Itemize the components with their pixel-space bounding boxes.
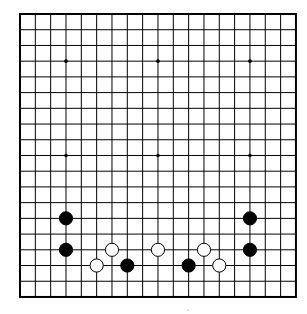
intersection[interactable] — [44, 228, 57, 241]
intersection[interactable] — [105, 149, 118, 162]
intersection[interactable] — [213, 70, 226, 83]
intersection[interactable] — [167, 196, 180, 209]
intersection[interactable] — [151, 228, 164, 241]
intersection[interactable] — [274, 102, 287, 115]
intersection[interactable] — [14, 39, 27, 52]
intersection[interactable] — [75, 212, 88, 225]
intersection[interactable] — [228, 133, 241, 146]
intersection[interactable] — [14, 228, 27, 241]
intersection[interactable] — [44, 39, 57, 52]
intersection[interactable] — [44, 23, 57, 36]
intersection[interactable] — [182, 228, 195, 241]
intersection[interactable] — [167, 290, 180, 303]
intersection[interactable] — [213, 118, 226, 131]
intersection[interactable] — [105, 133, 118, 146]
intersection[interactable] — [243, 39, 256, 52]
intersection[interactable] — [105, 180, 118, 193]
intersection[interactable] — [136, 70, 149, 83]
intersection[interactable] — [243, 55, 256, 68]
intersection[interactable] — [228, 275, 241, 288]
intersection[interactable] — [105, 165, 118, 178]
intersection[interactable] — [121, 102, 134, 115]
intersection[interactable] — [228, 212, 241, 225]
intersection[interactable] — [213, 180, 226, 193]
intersection[interactable] — [121, 70, 134, 83]
intersection[interactable] — [44, 133, 57, 146]
intersection[interactable] — [259, 118, 272, 131]
intersection[interactable] — [75, 290, 88, 303]
intersection[interactable] — [59, 275, 72, 288]
intersection[interactable] — [136, 275, 149, 288]
intersection[interactable] — [274, 39, 287, 52]
intersection[interactable] — [197, 180, 210, 193]
intersection[interactable] — [243, 8, 256, 21]
intersection[interactable] — [29, 212, 42, 225]
intersection[interactable] — [274, 86, 287, 99]
intersection[interactable] — [197, 290, 210, 303]
intersection[interactable] — [59, 180, 72, 193]
intersection[interactable] — [121, 55, 134, 68]
intersection[interactable] — [75, 196, 88, 209]
intersection[interactable] — [182, 118, 195, 131]
intersection[interactable] — [44, 196, 57, 209]
intersection[interactable] — [213, 212, 226, 225]
intersection[interactable] — [167, 70, 180, 83]
intersection[interactable] — [289, 55, 302, 68]
intersection[interactable] — [14, 23, 27, 36]
intersection[interactable] — [90, 275, 103, 288]
intersection[interactable] — [274, 23, 287, 36]
intersection[interactable] — [105, 290, 118, 303]
intersection[interactable] — [228, 259, 241, 272]
intersection[interactable] — [274, 275, 287, 288]
intersection[interactable] — [213, 23, 226, 36]
intersection[interactable] — [44, 149, 57, 162]
intersection[interactable] — [289, 70, 302, 83]
intersection[interactable] — [59, 290, 72, 303]
intersection[interactable] — [14, 180, 27, 193]
intersection[interactable] — [14, 102, 27, 115]
intersection[interactable] — [105, 275, 118, 288]
intersection[interactable] — [59, 228, 72, 241]
intersection[interactable] — [14, 133, 27, 146]
intersection[interactable] — [213, 290, 226, 303]
intersection[interactable] — [228, 8, 241, 21]
intersection[interactable] — [90, 39, 103, 52]
intersection[interactable] — [167, 212, 180, 225]
intersection[interactable] — [259, 259, 272, 272]
intersection[interactable] — [44, 275, 57, 288]
intersection[interactable] — [182, 165, 195, 178]
intersection[interactable] — [243, 180, 256, 193]
intersection[interactable] — [90, 228, 103, 241]
intersection[interactable] — [274, 180, 287, 193]
intersection[interactable] — [151, 70, 164, 83]
intersection[interactable] — [228, 23, 241, 36]
intersection[interactable] — [29, 39, 42, 52]
intersection[interactable] — [274, 149, 287, 162]
intersection[interactable] — [182, 23, 195, 36]
go-board-grid[interactable] — [0, 0, 307, 314]
intersection[interactable] — [59, 196, 72, 209]
intersection[interactable] — [75, 86, 88, 99]
intersection[interactable] — [90, 165, 103, 178]
intersection[interactable] — [151, 196, 164, 209]
intersection[interactable] — [75, 70, 88, 83]
intersection[interactable] — [151, 8, 164, 21]
intersection[interactable] — [243, 196, 256, 209]
intersection[interactable] — [75, 149, 88, 162]
intersection[interactable] — [243, 259, 256, 272]
intersection[interactable] — [167, 86, 180, 99]
intersection[interactable] — [59, 133, 72, 146]
intersection[interactable] — [136, 228, 149, 241]
intersection[interactable] — [167, 259, 180, 272]
intersection[interactable] — [259, 39, 272, 52]
intersection[interactable] — [136, 259, 149, 272]
intersection[interactable] — [182, 39, 195, 52]
intersection[interactable] — [105, 70, 118, 83]
intersection[interactable] — [14, 196, 27, 209]
intersection[interactable] — [274, 290, 287, 303]
intersection[interactable] — [44, 118, 57, 131]
intersection[interactable] — [75, 102, 88, 115]
intersection[interactable] — [44, 212, 57, 225]
intersection[interactable] — [59, 86, 72, 99]
intersection[interactable] — [121, 149, 134, 162]
